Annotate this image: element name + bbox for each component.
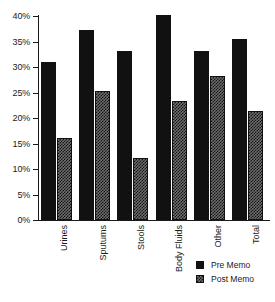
y-tick-label: 15% (0, 140, 30, 149)
legend-label-post-memo: Post Memo (211, 275, 254, 284)
y-tick-label: 25% (0, 89, 30, 98)
y-tick-mark (33, 144, 38, 145)
bar-body-fluids-post-memo (172, 101, 187, 220)
bar-urines-pre-memo (41, 62, 56, 220)
y-tick-mark (33, 195, 38, 196)
legend-swatch-post-memo (196, 275, 204, 283)
y-tick-mark (33, 93, 38, 94)
x-axis-label-sputums: Sputums (99, 225, 108, 261)
legend-swatch-pre-memo (196, 261, 204, 269)
legend-item-post-memo: Post Memo (196, 272, 254, 286)
y-tick-label: 0% (0, 216, 30, 225)
y-tick-label: 40% (0, 12, 30, 21)
y-tick-mark (33, 16, 38, 17)
bar-sputums-post-memo (95, 91, 110, 220)
bar-urines-post-memo (57, 138, 72, 220)
y-tick-mark (33, 42, 38, 43)
chart-legend: Pre Memo Post Memo (196, 258, 254, 286)
y-tick-label: 20% (0, 114, 30, 123)
y-tick-mark (33, 118, 38, 119)
y-tick-label: 5% (0, 191, 30, 200)
bar-total-post-memo (248, 111, 263, 220)
x-axis-label-total: Total (252, 225, 261, 244)
bar-stools-post-memo (133, 158, 148, 220)
y-tick-label: 35% (0, 38, 30, 47)
y-tick-label: 30% (0, 63, 30, 72)
bar-other-pre-memo (194, 51, 209, 220)
y-tick-mark (33, 169, 38, 170)
bar-sputums-pre-memo (79, 30, 94, 220)
y-tick-mark (33, 220, 38, 221)
bar-chart: 40%35%30%25%20%15%10%5%0% UrinesSputumsS… (0, 0, 275, 302)
x-axis-line (38, 220, 270, 221)
legend-label-pre-memo: Pre Memo (211, 261, 250, 270)
bar-body-fluids-pre-memo (156, 15, 171, 220)
x-axis-label-urines: Urines (60, 225, 69, 251)
y-tick-mark (33, 67, 38, 68)
x-axis-label-body-fluids: Body Fluids (175, 225, 184, 272)
x-axis-label-other: Other (214, 225, 223, 248)
x-axis-label-stools: Stools (137, 225, 146, 250)
bar-total-pre-memo (232, 39, 247, 220)
bar-other-post-memo (210, 76, 225, 220)
bar-stools-pre-memo (117, 51, 132, 220)
y-axis-line (38, 15, 39, 221)
y-tick-label: 10% (0, 165, 30, 174)
legend-item-pre-memo: Pre Memo (196, 258, 254, 272)
